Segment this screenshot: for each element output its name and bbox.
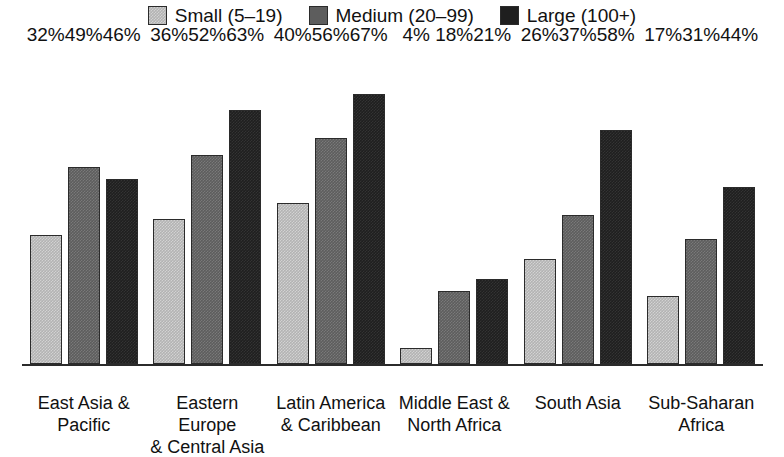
bar-medium[interactable]: 37%: [562, 215, 594, 364]
legend-item-medium[interactable]: Medium (20–99): [309, 6, 474, 25]
bar-slot: 17%: [647, 48, 679, 364]
bar-value-label: 32%: [27, 25, 65, 45]
bar-value-label: 37%: [559, 25, 597, 45]
legend-swatch-medium-icon: [309, 6, 328, 25]
plot-area: 32%49%46%36%52%63%40%56%67%4%18%21%26%37…: [22, 48, 763, 366]
bar-value-label: 49%: [65, 25, 103, 45]
category-axis-labels: East Asia &PacificEastern Europe& Centra…: [22, 392, 763, 457]
legend-swatch-small-icon: [148, 6, 167, 25]
legend-item-small[interactable]: Small (5–19): [148, 6, 283, 25]
bar-large[interactable]: 46%: [106, 179, 138, 364]
bar-medium[interactable]: 31%: [685, 239, 717, 364]
bar-value-label: 4%: [403, 25, 430, 45]
bar-large[interactable]: 21%: [476, 279, 508, 364]
bar-small[interactable]: 26%: [524, 259, 556, 364]
bar-slot: 67%: [353, 48, 385, 364]
chart-legend: Small (5–19)Medium (20–99)Large (100+): [0, 6, 784, 25]
bar-slot: 49%: [68, 48, 100, 364]
bar-slot: 58%: [600, 48, 632, 364]
bar-small[interactable]: 17%: [647, 296, 679, 364]
bar-value-label: 67%: [350, 25, 388, 45]
legend-label-small: Small (5–19): [175, 6, 283, 25]
category-label-line1: Middle East &: [393, 392, 517, 414]
bar-value-label: 21%: [473, 25, 511, 45]
bar-small[interactable]: 4%: [400, 348, 432, 364]
bar-group: 32%49%46%: [22, 48, 146, 364]
bar-small[interactable]: 36%: [153, 219, 185, 364]
category-label: Sub-SaharanAfrica: [640, 392, 764, 457]
category-label-line1: South Asia: [516, 392, 640, 414]
bar-slot: 32%: [30, 48, 62, 364]
category-label-line2: Pacific: [22, 414, 146, 436]
category-label: Latin America& Caribbean: [269, 392, 393, 457]
category-label-line1: Sub-Saharan: [640, 392, 764, 414]
bar-group: 26%37%58%: [516, 48, 640, 364]
bar-slot: 44%: [723, 48, 755, 364]
bar-small[interactable]: 32%: [30, 235, 62, 364]
bar-value-label: 17%: [644, 25, 682, 45]
category-label-line1: Latin America: [269, 392, 393, 414]
bar-group: 4%18%21%: [393, 48, 517, 364]
category-label-line2: North Africa: [393, 414, 517, 436]
bar-slot: 31%: [685, 48, 717, 364]
bar-large[interactable]: 67%: [353, 94, 385, 364]
bar-value-label: 46%: [103, 25, 141, 45]
legend-item-large[interactable]: Large (100+): [500, 6, 636, 25]
category-label: Eastern Europe& Central Asia: [146, 392, 270, 457]
bar-medium[interactable]: 56%: [315, 138, 347, 364]
bar-slot: 46%: [106, 48, 138, 364]
bar-slot: 40%: [277, 48, 309, 364]
x-axis-baseline: [22, 364, 763, 366]
bar-medium[interactable]: 18%: [438, 291, 470, 364]
legend-swatch-large-icon: [500, 6, 519, 25]
bar-value-label: 44%: [720, 25, 758, 45]
bar-group: 40%56%67%: [269, 48, 393, 364]
category-label-line1: Eastern Europe: [146, 392, 270, 436]
bar-slot: 37%: [562, 48, 594, 364]
legend-label-medium: Medium (20–99): [336, 6, 474, 25]
bar-small[interactable]: 40%: [277, 203, 309, 364]
bar-slot: 52%: [191, 48, 223, 364]
bar-value-label: 18%: [435, 25, 473, 45]
bar-large[interactable]: 44%: [723, 187, 755, 364]
bar-medium[interactable]: 49%: [68, 167, 100, 364]
bar-group: 17%31%44%: [640, 48, 764, 364]
bar-value-label: 63%: [226, 25, 264, 45]
bar-value-label: 56%: [312, 25, 350, 45]
bar-value-label: 58%: [597, 25, 635, 45]
category-label-line2: Africa: [640, 414, 764, 436]
bar-slot: 21%: [476, 48, 508, 364]
bar-large[interactable]: 63%: [229, 110, 261, 364]
bar-large[interactable]: 58%: [600, 130, 632, 364]
category-label: East Asia &Pacific: [22, 392, 146, 457]
category-label-line2: & Central Asia: [146, 436, 270, 457]
bar-slot: 56%: [315, 48, 347, 364]
category-label-line1: East Asia &: [22, 392, 146, 414]
bar-slot: 26%: [524, 48, 556, 364]
bar-value-label: 40%: [274, 25, 312, 45]
bar-slot: 18%: [438, 48, 470, 364]
bar-groups: 32%49%46%36%52%63%40%56%67%4%18%21%26%37…: [22, 48, 763, 364]
category-label: Middle East &North Africa: [393, 392, 517, 457]
bar-medium[interactable]: 52%: [191, 155, 223, 364]
bar-value-label: 36%: [150, 25, 188, 45]
category-label-line2: & Caribbean: [269, 414, 393, 436]
bar-group: 36%52%63%: [146, 48, 270, 364]
bar-slot: 4%: [400, 48, 432, 364]
bar-value-label: 26%: [521, 25, 559, 45]
bar-value-label: 52%: [188, 25, 226, 45]
bar-slot: 36%: [153, 48, 185, 364]
bar-slot: 63%: [229, 48, 261, 364]
legend-label-large: Large (100+): [527, 6, 636, 25]
bar-value-label: 31%: [682, 25, 720, 45]
category-label: South Asia: [516, 392, 640, 457]
